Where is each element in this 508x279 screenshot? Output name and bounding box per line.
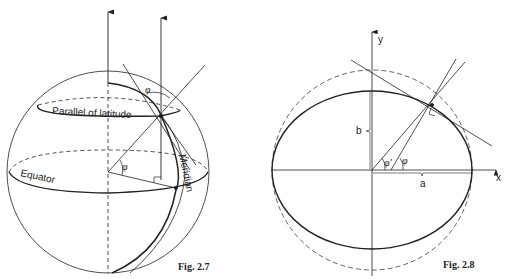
b-brace (366, 91, 370, 169)
label-a: a (420, 178, 426, 189)
fig-2-8-ellipse-diagram (272, 32, 496, 276)
label-phi-center: φ (122, 161, 128, 172)
a-brace (373, 173, 472, 176)
label-meridian: Meridian (177, 153, 196, 193)
label-parallel-of-latitude: Parallel of latitude (52, 105, 132, 120)
figure-canvas: Parallel of latitude Equator Meridian φ … (0, 0, 508, 279)
label-y-axis: y (378, 34, 383, 45)
label-phi-prime: φ' (384, 157, 393, 168)
fig-2-7-sphere-diagram (7, 12, 209, 273)
point-on-ellipse (431, 104, 434, 107)
normal-line (391, 59, 456, 170)
caption-fig-2-7: Fig. 2.7 (178, 261, 209, 272)
label-phi: φ (402, 155, 408, 166)
label-phi-top: φ (145, 84, 151, 95)
point-on-parallel (159, 114, 163, 118)
label-b: b (356, 125, 362, 136)
point-on-equator (175, 187, 178, 190)
caption-fig-2-8: Fig. 2.8 (443, 259, 474, 270)
label-x-axis: x (496, 172, 501, 183)
right-angle-mark (154, 177, 161, 183)
equatorial-radius (108, 172, 176, 188)
geocentric-line (372, 62, 465, 170)
